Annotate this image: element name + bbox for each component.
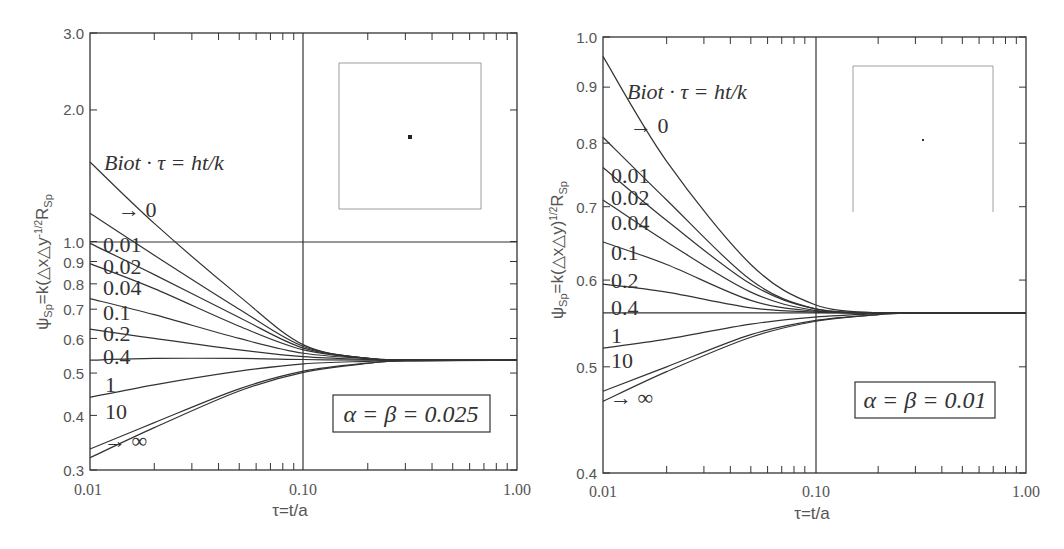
right-ytick-0.8: 0.8 — [576, 135, 597, 152]
right-ytick-1.0: 1.0 — [576, 29, 597, 46]
curve-10 — [603, 313, 1026, 391]
right-curve-label-0.1: 0.1 — [611, 240, 639, 265]
right-curve-label-10: 10 — [611, 348, 633, 373]
left-ytick-2.0: 2.0 — [63, 101, 84, 118]
right-xtick-0.10: 0.10 — [802, 483, 830, 500]
curve-0.04 — [603, 200, 1026, 313]
left-chart: 3.0 2.0 1.0 0.9 0.8 0.7 0.6 0.5 0.4 0.3 … — [33, 25, 531, 520]
right-ytick-0.6: 0.6 — [576, 272, 597, 289]
curve-0.02 — [603, 168, 1026, 314]
left-inset-dot — [408, 135, 412, 139]
right-ytick-0.9: 0.9 — [576, 78, 597, 95]
curve-0.1 — [603, 242, 1026, 313]
left-alpha-beta-label: α = β = 0.025 — [344, 401, 479, 427]
right-xtick-1.00: 1.00 — [1012, 483, 1040, 500]
left-x-axis-title: τ=t/a — [272, 501, 308, 520]
right-curve-label-0.02: 0.02 — [611, 185, 650, 210]
right-curve-label-0.4: 0.4 — [611, 295, 639, 320]
right-curves — [603, 56, 1026, 401]
right-ytick-0.5: 0.5 — [576, 359, 597, 376]
left-curve-label-1: 1 — [105, 372, 116, 397]
left-curve-label-0.04: 0.04 — [103, 275, 142, 300]
left-biot-annotation: Biot · τ = ht/k — [104, 150, 225, 175]
right-alpha-beta-label: α = β = 0.01 — [864, 387, 987, 413]
left-xtick-0.01: 0.01 — [74, 481, 102, 498]
right-biot-annotation: Biot · τ = ht/k — [627, 79, 748, 104]
curve-0.01 — [603, 137, 1026, 313]
left-ytick-0.9: 0.9 — [63, 254, 84, 271]
right-curve-label-1: 1 — [611, 323, 622, 348]
right-xtick-0.01: 0.01 — [589, 483, 617, 500]
left-ytick-0.6: 0.6 — [63, 331, 84, 348]
right-ytick-0.7: 0.7 — [576, 199, 597, 216]
left-curve-label-inf: → ∞ — [104, 428, 147, 453]
right-curve-label-0.04: 0.04 — [611, 210, 650, 235]
right-inset-dot — [922, 139, 924, 141]
right-curve-label-inf: → ∞ — [610, 385, 653, 410]
right-curve-label-0.2: 0.2 — [611, 268, 639, 293]
left-ytick-0.8: 0.8 — [63, 276, 84, 293]
right-curve-label-0: → 0 — [630, 113, 669, 138]
left-ytick-0.7: 0.7 — [63, 301, 84, 318]
curve-1 — [603, 313, 1026, 348]
left-xtick-0.10: 0.10 — [289, 481, 317, 498]
left-curve-label-0: → 0 — [118, 197, 157, 222]
right-chart: 1.0 0.9 0.8 0.7 0.6 0.5 0.4 0.01 0.10 1.… — [548, 29, 1040, 523]
right-y-axis-title: ψSp=k(△x△y)1/2RSp — [548, 181, 569, 319]
left-ytick-0.4: 0.4 — [63, 408, 84, 425]
left-ytick-0.5: 0.5 — [63, 365, 84, 382]
left-y-axis-title: ψSp=k(△x△y-1/2RSp — [33, 194, 54, 330]
right-x-axis-title: τ=t/a — [794, 504, 830, 523]
left-ytick-1.0: 1.0 — [63, 234, 84, 251]
left-curve-label-10: 10 — [105, 399, 127, 424]
left-ytick-3.0: 3.0 — [63, 25, 84, 42]
left-curve-label-0.4: 0.4 — [103, 344, 131, 369]
left-curve-label-0.2: 0.2 — [103, 321, 131, 346]
left-xtick-1.00: 1.00 — [503, 481, 531, 498]
figure: 3.0 2.0 1.0 0.9 0.8 0.7 0.6 0.5 0.4 0.3 … — [0, 0, 1064, 549]
left-ytick-0.3: 0.3 — [63, 462, 84, 479]
right-ytick-0.4: 0.4 — [576, 465, 597, 482]
